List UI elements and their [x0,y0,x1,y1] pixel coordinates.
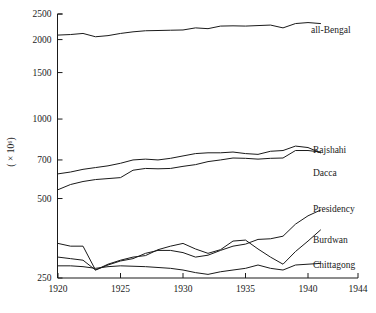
series-label-chittagong: Chittagong [313,260,355,270]
y-tick-label: 1000 [33,114,52,124]
data-line-all-bengal [58,23,321,37]
y-tick-label: 2500 [33,9,52,19]
x-tick-label: 1920 [49,284,68,294]
series-label-presidency: Presidency [313,204,355,214]
y-tick-label: 1500 [33,68,52,78]
y-tick-label: 500 [37,194,52,204]
data-line-presidency [58,210,321,270]
line-chart-plot: 2505007001000150020002500 19201925193019… [0,0,376,313]
x-tick-label: 1935 [236,284,255,294]
y-tick-label: 700 [37,155,52,165]
x-tick-label: 1925 [111,284,130,294]
x-tick-label: 1944 [349,284,368,294]
chart-figure: 2505007001000150020002500 19201925193019… [0,0,376,313]
series-label-burdwan: Burdwan [313,235,348,245]
y-tick-label: 250 [37,273,52,283]
series-label-dacca: Dacca [313,168,338,178]
x-tick-label: 1930 [174,284,193,294]
data-line-dacca [58,151,321,190]
y-axis: 2505007001000150020002500 [33,9,63,283]
data-line-rajshahi [58,146,321,174]
x-axis: 192019251930193519401944 [49,273,368,294]
series-label-rajshahi: Rajshahi [313,145,347,155]
data-series-group [58,23,321,275]
data-line-burdwan [58,230,321,270]
y-axis-unit-label: ( × 10⁶) [6,137,17,166]
series-label-all-bengal: all-Bengal [311,25,351,35]
x-tick-label: 1940 [299,284,318,294]
y-tick-label: 2000 [33,35,52,45]
series-labels-group: all-BengalRajshahiDaccaPresidencyBurdwan… [311,25,355,270]
y-axis-unit-text: ( × 10⁶) [6,137,17,166]
